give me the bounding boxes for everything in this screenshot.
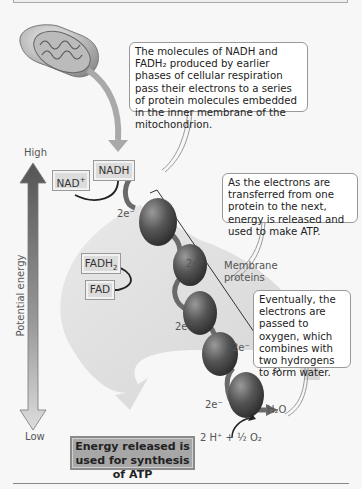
atp-synthesis-box: Energy released is used for synthesis of…	[70, 436, 195, 470]
nadh-box: NADH	[93, 160, 135, 181]
electron-label-3: 2e⁻	[175, 321, 193, 332]
electron-label-5: 2e⁻	[205, 399, 223, 410]
axis-high-label: High	[24, 147, 47, 158]
fad-box: FAD	[85, 280, 115, 300]
nad-plus-box: NAD+	[52, 170, 90, 191]
reactants-label: 2 H⁺ + ½ O₂	[200, 432, 262, 443]
electron-label-2: 2e⁻	[186, 258, 204, 269]
electron-label-4: 2e⁻	[232, 342, 250, 353]
fadh2-box: FADH2	[81, 253, 121, 274]
electron-label-1: 2e⁻	[117, 208, 135, 219]
axis-low-label: Low	[25, 431, 45, 442]
water-label: H₂O	[267, 404, 286, 415]
callout-oxygen: Eventually, the electrons are passed to …	[253, 290, 351, 368]
callout-nadh-intro: The molecules of NADH and FADH₂ produced…	[129, 42, 308, 112]
bottom-divider	[13, 483, 349, 484]
axis-potential-energy-label: Potential energy	[15, 255, 26, 337]
callout-electron-transfer: As the electrons are transferred from on…	[222, 173, 358, 223]
membrane-proteins-label: Membrane proteins	[224, 260, 284, 284]
